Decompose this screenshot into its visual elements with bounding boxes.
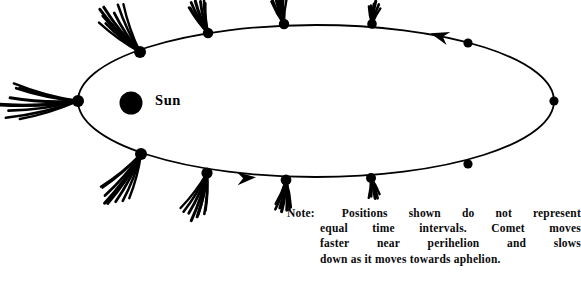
comet-position-dot [366, 173, 376, 183]
sun-dot [120, 92, 143, 115]
comet-position-dot [367, 19, 377, 29]
note-block: Note: Positions shown do not represent e… [287, 206, 581, 267]
note-word: not [495, 206, 512, 221]
comet-position-dot [203, 28, 213, 38]
note-word: shown [409, 206, 441, 221]
sun-body [120, 92, 143, 115]
note-line-2: equal time intervals. Comet moves [287, 221, 581, 236]
note-word: moves [549, 221, 581, 236]
comet-position-dot [281, 175, 292, 186]
note-word: slows [554, 236, 581, 251]
comet-position-dot [134, 46, 146, 58]
note-word: near [377, 236, 400, 251]
comet-position-dot [135, 148, 147, 160]
note-line-4: down as it moves towards aphelion. [287, 252, 581, 267]
note-line-1: Note: Positions shown do not represent [287, 206, 581, 221]
comet-position-dot [279, 19, 289, 29]
note-word: perihelion [428, 236, 480, 251]
comet-position-dot [463, 159, 472, 168]
comet-position-dot [463, 38, 472, 47]
comet-position-dot [549, 96, 558, 105]
note-line-3: faster near perihelion and slows [287, 236, 581, 251]
note-word: Positions [342, 206, 388, 221]
note-word: and [507, 236, 526, 251]
comet-position-dot [201, 167, 212, 178]
note-word: do [462, 206, 475, 221]
sun-label: Sun [155, 92, 181, 109]
note-word: represent [533, 206, 581, 221]
note-word: time [372, 221, 395, 236]
note-word: faster [320, 236, 349, 251]
note-word: intervals. [419, 221, 467, 236]
note-word: Comet [491, 221, 525, 236]
note-label: Note: [287, 206, 321, 221]
comet-position-dot [72, 95, 84, 107]
note-word: equal [320, 221, 348, 236]
